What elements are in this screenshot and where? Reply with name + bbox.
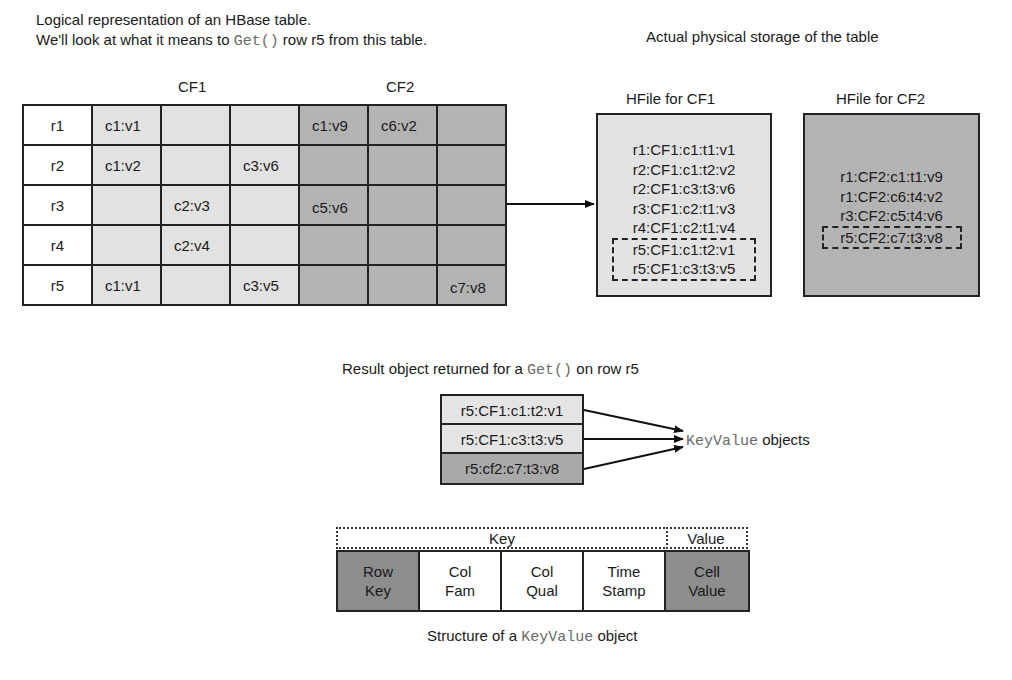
hfile-line: r3:CF2:c5:t4:v6	[805, 206, 978, 226]
result-caption: Result object returned for a Get() on ro…	[342, 359, 639, 380]
kv-label: Col	[445, 562, 475, 581]
kv-col-qual: ColQual	[502, 552, 584, 610]
kv-label: Col	[526, 562, 558, 581]
arrow-right-icon	[584, 410, 683, 431]
hfile-line: r1:CF1:c1:t1:v1	[598, 140, 770, 160]
kv-timestamp: TimeStamp	[584, 552, 666, 610]
kv-label: Time	[602, 562, 645, 581]
kv-label: Qual	[526, 581, 558, 600]
kv-label: Stamp	[602, 581, 645, 600]
caption-text: Result object returned for a	[342, 360, 527, 377]
hfile-line-highlighted: r5:CF2:c7:t3:v8	[824, 228, 960, 248]
get-code: Get()	[527, 362, 572, 379]
caption-text-post: object	[593, 627, 637, 644]
highlight-box: r5:CF2:c7:t3:v8	[822, 226, 962, 250]
hfile-cf1: r1:CF1:c1:t1:v1 r2:CF1:c1:t2:v2 r2:CF1:c…	[596, 113, 772, 297]
value-bracket: Value	[666, 527, 748, 549]
keyvalue-code: KeyValue	[686, 433, 758, 450]
keyvalue-caption: Structure of a KeyValue object	[427, 626, 637, 647]
hfile-line-highlighted: r5:CF1:c1:t2:v1	[614, 240, 754, 260]
pointer-text: objects	[758, 431, 810, 448]
key-bracket: Key	[336, 527, 668, 549]
hfile-cf1-title: HFile for CF1	[626, 89, 715, 108]
keyvalue-code: KeyValue	[521, 629, 593, 646]
kv-col-fam: ColFam	[420, 552, 502, 610]
kv-label: Cell	[688, 562, 725, 581]
result-keyvalue: r5:CF1:c3:t3:v5	[442, 425, 582, 454]
hfile-line: r4:CF1:c2:t1:v4	[598, 218, 770, 238]
hfile-line: r1:CF2:c6:t4:v2	[805, 187, 978, 207]
kv-row-key: RowKey	[338, 552, 420, 610]
caption-text: Structure of a	[427, 627, 521, 644]
kv-cell-value: CellValue	[666, 552, 748, 610]
hfile-line: r3:CF1:c2:t1:v3	[598, 199, 770, 219]
caption-text-post: on row r5	[572, 360, 639, 377]
arrow-right-icon	[584, 447, 683, 469]
kv-label: Fam	[445, 581, 475, 600]
hfile-cf2-title: HFile for CF2	[836, 89, 925, 108]
keyvalue-structure: RowKey ColFam ColQual TimeStamp CellValu…	[336, 550, 750, 612]
hfile-line: r1:CF2:c1:t1:v9	[805, 167, 978, 187]
keyvalue-pointer-label: KeyValue objects	[686, 430, 810, 451]
hfile-line: r2:CF1:c3:t3:v6	[598, 179, 770, 199]
highlight-box: r5:CF1:c1:t2:v1 r5:CF1:c3:t3:v5	[612, 238, 756, 281]
hfile-line: r2:CF1:c1:t2:v2	[598, 160, 770, 180]
result-keyvalue: r5:cf2:c7:t3:v8	[442, 454, 582, 483]
hfile-cf2: r1:CF2:c1:t1:v9 r1:CF2:c6:t4:v2 r3:CF2:c…	[803, 113, 980, 297]
kv-label: Value	[688, 581, 725, 600]
kv-label: Row	[363, 562, 393, 581]
result-keyvalue: r5:CF1:c1:t2:v1	[442, 396, 582, 425]
hfile-line-highlighted: r5:CF1:c3:t3:v5	[614, 259, 754, 279]
kv-label: Key	[363, 581, 393, 600]
result-object: r5:CF1:c1:t2:v1 r5:CF1:c3:t3:v5 r5:cf2:c…	[440, 394, 584, 485]
